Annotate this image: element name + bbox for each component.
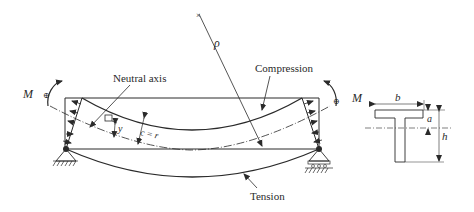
- t-section-cross-section: [365, 100, 452, 162]
- b-label: b: [395, 91, 401, 103]
- y-label: y: [117, 123, 123, 134]
- roller-support-right: [305, 146, 333, 173]
- moment-arc-right: ⊕: [324, 81, 340, 106]
- h-label: h: [442, 130, 448, 142]
- plus-circle-icon: ⊕: [333, 97, 340, 106]
- moment-arc-left: ⊕: [43, 81, 62, 106]
- beam-deformed: [50, 98, 330, 177]
- tension-label: Tension: [250, 190, 285, 202]
- neutral-axis-label: Neutral axis: [113, 72, 166, 84]
- plus-circle-icon: ⊕: [43, 91, 50, 100]
- moment-left-label: M: [22, 87, 34, 101]
- compression-label: Compression: [255, 62, 314, 74]
- stress-arrows-left: [63, 101, 81, 143]
- rho-label: ρ: [213, 36, 220, 50]
- moment-right-label: M: [351, 91, 363, 105]
- svg-text:×: ×: [196, 11, 201, 20]
- compression-leader: [262, 76, 270, 110]
- a-label: a: [427, 113, 432, 124]
- element-square: [105, 115, 112, 121]
- beam-original-outline: [65, 98, 319, 149]
- c-eq-r-label: c = r: [140, 127, 160, 141]
- beam-bending-diagram: × ρ ⊕ M: [0, 0, 474, 212]
- tension-leader: [244, 174, 257, 188]
